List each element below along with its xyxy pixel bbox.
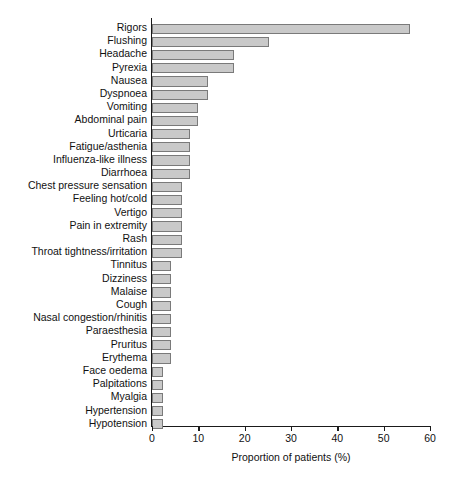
bar (152, 314, 171, 324)
bar-category-label: Dizziness (102, 272, 147, 285)
bar-category-label: Urticaria (108, 127, 147, 140)
bar (152, 155, 190, 165)
bar-row: Nasal congestion/rhinitis (152, 312, 430, 325)
x-tick-mark (152, 426, 153, 431)
bar-category-label: Malaise (111, 285, 147, 298)
bar-category-label: Pruritus (111, 338, 147, 351)
bar-row: Pruritus (152, 339, 430, 352)
x-tick-mark (198, 426, 199, 431)
bar-category-label: Dyspnoea (100, 87, 147, 100)
bar-category-label: Abdominal pain (75, 113, 147, 126)
bar-category-label: Rigors (117, 21, 147, 34)
bar-row: Fatigue/asthenia (152, 141, 430, 154)
x-tick-label: 30 (271, 432, 311, 444)
bar-row: Malaise (152, 286, 430, 299)
bar-category-label: Hypotension (89, 417, 147, 430)
bar-category-label: Tinnitus (111, 258, 147, 271)
bar-row: Feeling hot/cold (152, 193, 430, 206)
bar-row: Paraesthesia (152, 325, 430, 338)
bar-row: Dizziness (152, 273, 430, 286)
bar (152, 367, 163, 377)
x-tick-label: 20 (225, 432, 265, 444)
bar-category-label: Paraesthesia (86, 324, 147, 337)
bar-category-label: Headache (99, 47, 147, 60)
bar (152, 340, 171, 350)
bar (152, 261, 171, 271)
bar-row: Rash (152, 233, 430, 246)
bar-row: Chest pressure sensation (152, 180, 430, 193)
x-axis-title: Proportion of patients (%) (152, 451, 430, 463)
bar (152, 301, 171, 311)
bar-category-label: Nausea (111, 74, 147, 87)
bar-chart: RigorsFlushingHeadachePyrexiaNauseaDyspn… (0, 0, 459, 481)
bar (152, 235, 182, 245)
bar-category-label: Rash (122, 232, 147, 245)
bar-row: Urticaria (152, 128, 430, 141)
plot-area: RigorsFlushingHeadachePyrexiaNauseaDyspn… (152, 18, 430, 427)
bar-category-label: Hypertension (85, 404, 147, 417)
bar-category-label: Vomiting (107, 100, 147, 113)
bar-category-label: Throat tightness/irritation (31, 245, 147, 258)
x-tick-label: 60 (410, 432, 450, 444)
bar (152, 76, 208, 86)
x-tick-label: 0 (132, 432, 172, 444)
bar (152, 393, 163, 403)
bar (152, 103, 198, 113)
x-tick-mark (430, 426, 431, 431)
x-tick-mark (291, 426, 292, 431)
bar (152, 353, 171, 363)
bar-category-label: Pyrexia (112, 61, 147, 74)
bar (152, 287, 171, 297)
bar-category-label: Vertigo (114, 206, 147, 219)
bar (152, 50, 234, 60)
bar-row: Cough (152, 299, 430, 312)
bar (152, 142, 190, 152)
bar-category-label: Face oedema (83, 364, 147, 377)
bar-row: Vomiting (152, 101, 430, 114)
bar (152, 419, 163, 429)
bar (152, 63, 234, 73)
bar-category-label: Fatigue/asthenia (69, 140, 147, 153)
bar (152, 406, 163, 416)
bar (152, 221, 182, 231)
bar-row: Rigors (152, 22, 430, 35)
x-tick-label: 50 (364, 432, 404, 444)
bar-category-label: Diarrhoea (101, 166, 147, 179)
bar-row: Erythema (152, 352, 430, 365)
bar-row: Palpitations (152, 378, 430, 391)
bar-row: Face oedema (152, 365, 430, 378)
bar (152, 208, 182, 218)
bar-row: Influenza-like illness (152, 154, 430, 167)
x-tick-label: 10 (178, 432, 218, 444)
bar (152, 116, 198, 126)
bar-category-label: Cough (116, 298, 147, 311)
bar (152, 248, 182, 258)
bar (152, 195, 182, 205)
bar-row: Abdominal pain (152, 114, 430, 127)
bar-row: Tinnitus (152, 259, 430, 272)
bar (152, 274, 171, 284)
bar (152, 327, 171, 337)
bar-category-label: Myalgia (111, 390, 147, 403)
bar-row: Throat tightness/irritation (152, 246, 430, 259)
bar-row: Vertigo (152, 207, 430, 220)
bar (152, 90, 208, 100)
bar-category-label: Pain in extremity (69, 219, 147, 232)
bar (152, 129, 190, 139)
x-tick-mark (245, 426, 246, 431)
bar-category-label: Erythema (102, 351, 147, 364)
bar (152, 182, 182, 192)
bar-category-label: Feeling hot/cold (73, 192, 147, 205)
bar-row: Diarrhoea (152, 167, 430, 180)
bar-row: Headache (152, 48, 430, 61)
bar-category-label: Palpitations (93, 377, 147, 390)
bar-row: Nausea (152, 75, 430, 88)
x-tick-mark (337, 426, 338, 431)
bar (152, 169, 190, 179)
bar (152, 37, 269, 47)
bar-row: Dyspnoea (152, 88, 430, 101)
bar-category-label: Chest pressure sensation (28, 179, 147, 192)
bar-row: Myalgia (152, 391, 430, 404)
bar (152, 24, 410, 34)
bar-category-label: Nasal congestion/rhinitis (33, 311, 147, 324)
